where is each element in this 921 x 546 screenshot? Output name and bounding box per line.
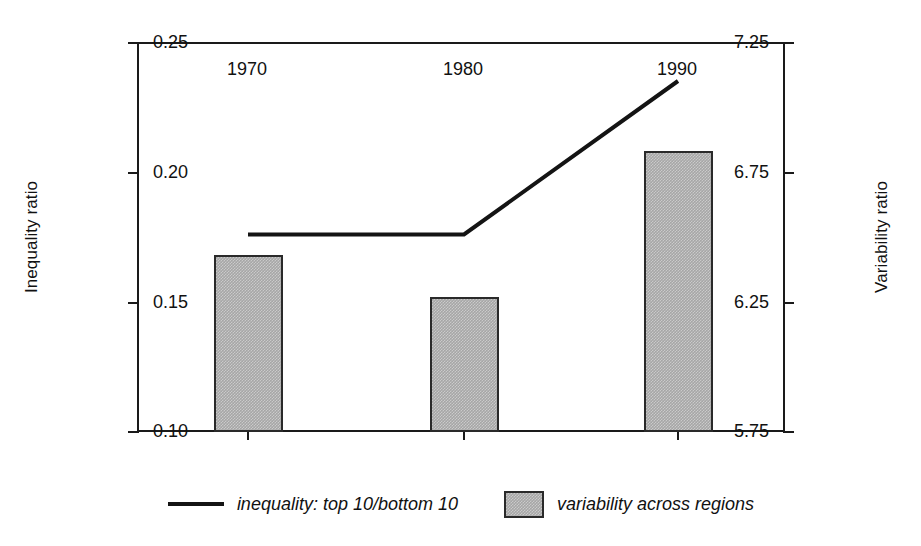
- y-axis-left-tick: [128, 302, 137, 304]
- line-marker-icon: [168, 502, 224, 506]
- chart-figure: Inequality ratio Variability ratio 7.25 …: [0, 0, 921, 546]
- inequality-line-series: [137, 42, 785, 432]
- y-axis-left-title: Inequality ratio: [22, 42, 50, 432]
- bar-swatch-icon: [504, 491, 544, 518]
- chart-legend: inequality: top 10/bottom 10 variability…: [137, 487, 785, 521]
- y-axis-left-tick: [128, 431, 137, 433]
- y-axis-right-tick: [785, 172, 794, 174]
- y-axis-right-tick: [785, 431, 794, 433]
- x-axis-tick: [463, 432, 465, 440]
- legend-label-inequality: inequality: top 10/bottom 10: [237, 494, 458, 515]
- plot-area: 7.25 6.75 6.25 5.75 0.25 0.20 0.15 0.10 …: [137, 42, 785, 432]
- legend-label-variability: variability across regions: [557, 494, 754, 515]
- legend-item-inequality: inequality: top 10/bottom 10: [168, 494, 458, 515]
- y-axis-right-tick: [785, 42, 794, 44]
- legend-item-variability: variability across regions: [504, 491, 754, 518]
- y-axis-right-title: Variability ratio: [872, 42, 900, 432]
- y-axis-left-tick: [128, 172, 137, 174]
- x-axis-tick: [677, 432, 679, 440]
- x-axis-tick: [247, 432, 249, 440]
- y-axis-left-tick: [128, 42, 137, 44]
- y-axis-right-tick: [785, 302, 794, 304]
